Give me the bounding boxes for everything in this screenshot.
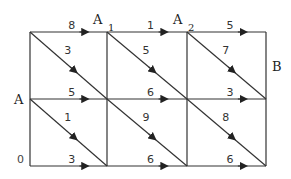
arrow-diagonal-icon: [149, 67, 154, 71]
edge-weight: 9: [143, 111, 150, 124]
edge-weight: 6: [226, 153, 233, 166]
node-label-a1: A: [92, 12, 103, 27]
edge-weight: 8: [68, 19, 75, 32]
node-label-a2: A: [172, 12, 183, 27]
edge-weight: 5: [68, 86, 75, 99]
edge-weight: 5: [226, 19, 233, 32]
arrow-diagonal-icon: [149, 134, 154, 138]
edge-weight: 1: [64, 111, 71, 124]
arrow-diagonal-icon: [228, 134, 233, 138]
arrow-diagonal-icon: [228, 67, 233, 71]
edge-weight: 6: [147, 86, 154, 99]
origin-label: 0: [17, 153, 24, 166]
edge-weight: 8: [222, 111, 229, 124]
arrow-diagonal-icon: [70, 134, 75, 138]
arrow-diagonal-icon: [70, 67, 75, 71]
edges-layer: 815563366357198: [30, 19, 266, 166]
grid-graph-diagram: 815563366357198 A A 1 A 2 B 0: [0, 0, 291, 179]
edge-weight: 7: [222, 44, 229, 57]
edge-weight: 1: [147, 19, 154, 32]
node-label-a2-subscript: 2: [188, 22, 194, 33]
edge-weight: 3: [226, 86, 233, 99]
edge-weight: 3: [68, 153, 75, 166]
edge-weight: 3: [64, 44, 71, 57]
edge-weight: 6: [147, 153, 154, 166]
edge-weight: 5: [143, 44, 150, 57]
node-label-a1-subscript: 1: [108, 22, 114, 33]
node-label-b: B: [272, 59, 282, 74]
node-label-a: A: [13, 92, 24, 107]
